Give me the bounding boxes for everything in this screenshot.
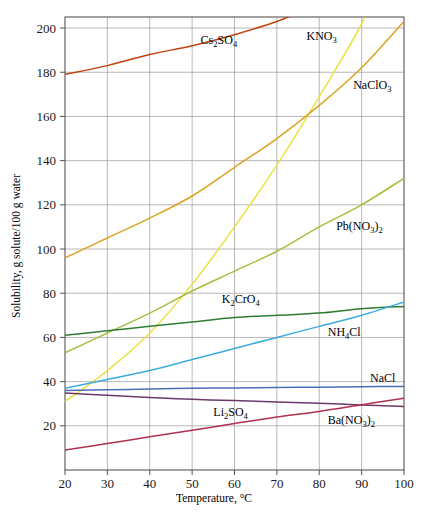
y-axis-title: Solubility, g solute/100 g water <box>10 146 22 346</box>
y-tick-label: 180 <box>37 65 57 80</box>
y-tick-label: 100 <box>37 242 57 257</box>
x-tick-label: 20 <box>59 476 72 491</box>
x-axis-tick-labels: 2030405060708090100 <box>59 476 414 491</box>
x-tick-label: 60 <box>228 476 241 491</box>
y-tick-label: 200 <box>37 21 57 36</box>
y-tick-label: 20 <box>43 418 56 433</box>
x-tick-label: 50 <box>186 476 199 491</box>
y-tick-label: 120 <box>37 197 57 212</box>
x-tick-label: 70 <box>270 476 283 491</box>
x-tick-label: 100 <box>394 476 414 491</box>
y-tick-label: 140 <box>37 153 57 168</box>
chart-background <box>0 0 428 525</box>
x-tick-label: 30 <box>101 476 114 491</box>
y-tick-label: 160 <box>37 109 57 124</box>
x-axis-title: Temperature, °C <box>0 492 428 504</box>
y-tick-label: 80 <box>43 286 56 301</box>
x-tick-label: 40 <box>143 476 156 491</box>
y-tick-label: 40 <box>43 374 56 389</box>
y-tick-label: 60 <box>43 330 56 345</box>
solubility-chart: 2030405060708090100 20406080100120140160… <box>0 0 428 525</box>
chart-canvas: 2030405060708090100 20406080100120140160… <box>0 0 428 525</box>
x-tick-label: 90 <box>355 476 368 491</box>
x-tick-label: 80 <box>313 476 326 491</box>
